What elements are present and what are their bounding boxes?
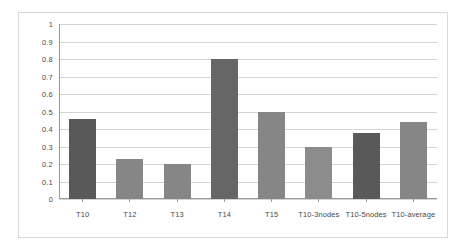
x-axis-tick-label: T10-5nodes [343, 210, 390, 219]
bar[interactable] [69, 119, 96, 200]
x-axis-tick-mark [318, 199, 319, 202]
x-axis-tick-labels: T10T12T13T14T15T10-3nodesT10-5nodesT10-a… [59, 210, 437, 219]
bar[interactable] [164, 164, 191, 199]
y-axis-tick-labels: 10.90.80.70.60.50.40.30.20.10 [19, 24, 53, 199]
x-axis-tick-mark [271, 199, 272, 202]
y-axis-tick-label: 0.7 [42, 72, 53, 81]
y-axis-tick-label: 0.1 [42, 177, 53, 186]
x-axis-tick-mark [177, 199, 178, 202]
bar-slot [248, 24, 295, 199]
x-axis-tick-mark [366, 199, 367, 202]
bar-slot [59, 24, 106, 199]
bar-series [59, 24, 437, 199]
x-axis-tick-label: T14 [201, 210, 248, 219]
y-axis-tick-label: 0.8 [42, 55, 53, 64]
bar-slot [343, 24, 390, 199]
y-axis-tick-label: 0.2 [42, 160, 53, 169]
plot-area [59, 24, 437, 199]
y-axis-tick-label: 0.4 [42, 125, 53, 134]
x-axis-tick-label: T10 [59, 210, 106, 219]
y-axis-tick-label: 0.9 [42, 37, 53, 46]
bar-slot [154, 24, 201, 199]
x-axis-tick-label: T10-average [390, 210, 437, 219]
x-axis-tick-mark [82, 199, 83, 202]
x-axis-tick-mark [413, 199, 414, 202]
bar[interactable] [116, 159, 143, 199]
y-axis-tick-label: 0.5 [42, 107, 53, 116]
y-axis-tick-label: 0 [49, 195, 53, 204]
bar[interactable] [353, 133, 380, 199]
bar[interactable] [258, 112, 285, 200]
y-axis-tick-label: 0.3 [42, 142, 53, 151]
x-axis-tick-mark [129, 199, 130, 202]
bar-slot [106, 24, 153, 199]
bar[interactable] [211, 59, 238, 199]
bar-slot [295, 24, 342, 199]
bar[interactable] [400, 122, 427, 199]
x-axis-tick-label: T12 [106, 210, 153, 219]
x-axis-tick-label: T13 [154, 210, 201, 219]
bar-slot [201, 24, 248, 199]
y-axis-tick-label: 0.6 [42, 90, 53, 99]
bar-slot [390, 24, 437, 199]
x-axis-tick-label: T10-3nodes [295, 210, 342, 219]
chart-frame: 10.90.80.70.60.50.40.30.20.10 T10T12T13T… [18, 12, 448, 238]
x-axis-tick-label: T15 [248, 210, 295, 219]
y-axis-tick-label: 1 [49, 20, 53, 29]
gridline [59, 199, 437, 200]
bar[interactable] [305, 147, 332, 200]
x-axis-tick-mark [224, 199, 225, 202]
